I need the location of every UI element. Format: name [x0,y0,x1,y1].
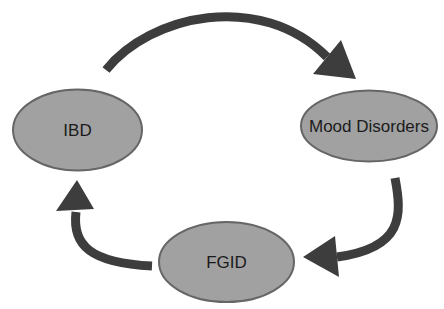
arrow-ibd-to-mood-disorders-shaft [106,17,327,70]
node-fgid-label: FGID [206,253,247,272]
arrow-fgid-to-ibd-shaft [75,212,152,266]
arrow-fgid-to-ibd-head [56,180,94,211]
arrow-fgid-to-ibd [56,180,152,266]
node-ibd-label: IBD [63,121,91,140]
diagram-svg: IBD Mood Disorders FGID [0,0,444,309]
node-mood-disorders: Mood Disorders [301,91,437,162]
arrow-mood-disorders-to-fgid-shaft [337,178,398,257]
cycle-diagram: IBD Mood Disorders FGID [0,0,444,309]
arrow-ibd-to-mood-disorders [106,17,356,79]
node-fgid: FGID [159,222,294,302]
arrow-mood-disorders-to-fgid-head [303,236,339,277]
node-ibd: IBD [13,90,142,171]
node-mood-disorders-label: Mood Disorders [309,117,429,136]
arrow-mood-disorders-to-fgid [303,178,398,277]
